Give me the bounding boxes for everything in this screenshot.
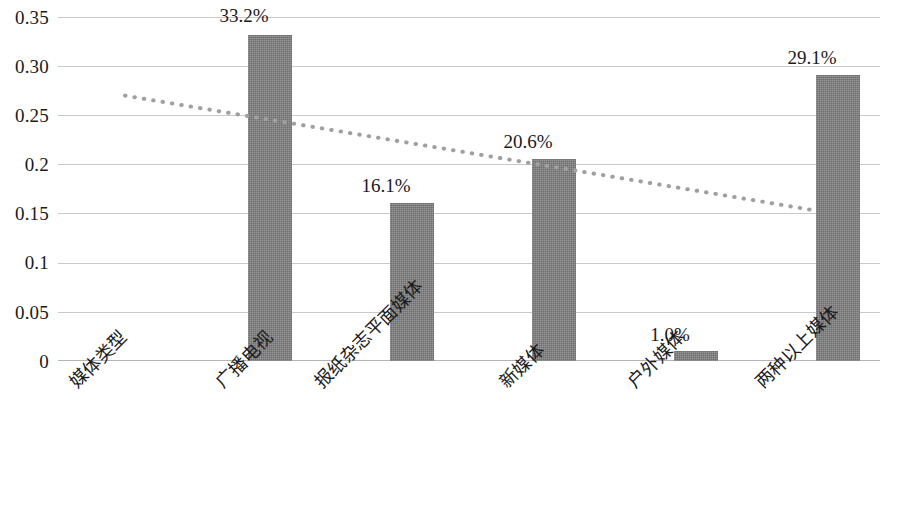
- x-axis-line: [58, 360, 880, 361]
- y-tick-label: 0: [39, 352, 49, 371]
- bar-chart: 0.35 0.30 0.25 0.2 0.15 0.1 0.05 0 33.2%…: [0, 0, 903, 520]
- data-label-liangzhong-yishang: 29.1%: [764, 48, 860, 67]
- gridline: [58, 164, 880, 165]
- bar-guangbo-dianshi: [248, 35, 292, 361]
- gridline: [58, 66, 880, 67]
- y-tick-label: 0.1: [25, 253, 49, 272]
- y-tick-label: 0.25: [15, 106, 49, 125]
- y-tick-label: 0.30: [15, 57, 49, 76]
- data-label-baozhi-zazhi: 16.1%: [338, 176, 434, 195]
- gridline: [58, 115, 880, 116]
- bar-xin-meiti: [532, 159, 576, 361]
- gridline: [58, 213, 880, 214]
- gridline: [58, 17, 880, 18]
- bar-huwai-meiti: [674, 351, 718, 361]
- y-tick-label: 0.2: [25, 155, 49, 174]
- y-tick-label: 0.05: [15, 303, 49, 322]
- gridline: [58, 263, 880, 264]
- data-label-xin-meiti: 20.6%: [480, 132, 576, 151]
- y-axis-labels: 0.35 0.30 0.25 0.2 0.15 0.1 0.05 0: [0, 17, 49, 361]
- gridline: [58, 312, 880, 313]
- y-tick-label: 0.35: [15, 8, 49, 27]
- plot-area: [58, 17, 880, 361]
- data-label-guangbo-dianshi: 33.2%: [196, 6, 292, 25]
- y-tick-label: 0.15: [15, 204, 49, 223]
